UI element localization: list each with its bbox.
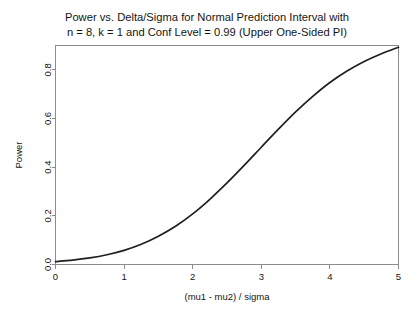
chart-container: Power vs. Delta/Sigma for Normal Predict…: [0, 0, 414, 318]
plot-frame: [56, 46, 399, 265]
power-curve-chart: Power vs. Delta/Sigma for Normal Predict…: [0, 0, 414, 318]
x-tick-label: 1: [121, 271, 126, 282]
y-tick-label: 0.8: [42, 63, 53, 76]
y-axis-title: Power: [13, 142, 24, 169]
y-tick-label: 0.4: [42, 161, 53, 174]
y-axis-ticks: 0.00.20.40.60.8: [42, 63, 56, 271]
chart-title-line-2: n = 8, k = 1 and Conf Level = 0.99 (Uppe…: [67, 26, 347, 38]
x-tick-label: 2: [190, 271, 195, 282]
chart-title-line-1: Power vs. Delta/Sigma for Normal Predict…: [65, 11, 349, 23]
y-tick-label: 0.0: [42, 258, 53, 271]
x-tick-label: 3: [259, 271, 264, 282]
x-axis-title: (mu1 - mu2) / sigma: [185, 291, 271, 302]
y-tick-label: 0.6: [42, 112, 53, 125]
power-data-line: [56, 47, 399, 261]
x-tick-label: 5: [396, 271, 401, 282]
x-axis-ticks: 012345: [53, 265, 401, 282]
y-tick-label: 0.2: [42, 209, 53, 222]
x-tick-label: 4: [327, 271, 332, 282]
x-tick-label: 0: [53, 271, 58, 282]
